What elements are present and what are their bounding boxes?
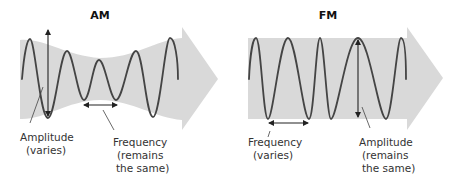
fm-frequency-label: Frequency (varies) <box>248 136 302 161</box>
fm-panel: FM Frequency (varies) Amplitude (remains… <box>248 9 443 174</box>
svg-text:Amplitude: Amplitude <box>20 131 74 143</box>
fm-amplitude-label: Amplitude (remains the same) <box>359 136 415 174</box>
am-frequency-label: Frequency (remains the same) <box>113 136 169 174</box>
svg-text:(remains: (remains <box>117 149 163 161</box>
svg-text:Frequency: Frequency <box>248 136 302 148</box>
svg-text:Amplitude: Amplitude <box>359 136 413 148</box>
svg-text:the same): the same) <box>362 162 415 174</box>
am-panel: AM Amplitude (varies) Frequency (remains… <box>20 9 218 174</box>
svg-text:(varies): (varies) <box>253 149 293 161</box>
am-fm-diagram: AM Amplitude (varies) Frequency (remains… <box>0 0 457 185</box>
svg-text:the same): the same) <box>116 162 169 174</box>
am-amplitude-label: Amplitude (varies) <box>20 131 74 156</box>
fm-title: FM <box>319 9 337 22</box>
svg-text:Frequency: Frequency <box>113 136 167 148</box>
svg-text:(remains: (remains <box>362 149 408 161</box>
am-signal-arrow <box>20 27 218 130</box>
svg-text:(varies): (varies) <box>26 144 66 156</box>
am-title: AM <box>90 9 109 22</box>
am-frequency-leader <box>103 110 114 130</box>
